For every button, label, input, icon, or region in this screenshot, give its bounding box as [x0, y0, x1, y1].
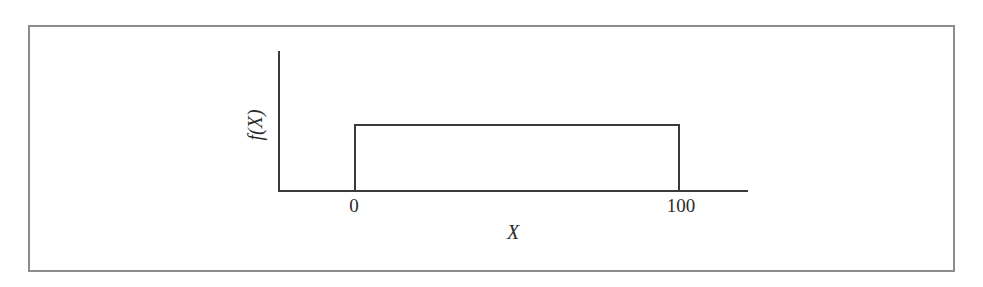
- x-tick-label-0: 0: [324, 196, 384, 215]
- x-tick-label-100: 100: [646, 196, 716, 215]
- y-axis-line: [278, 51, 280, 192]
- uniform-density-rectangle: [354, 124, 680, 191]
- figure-root: 0 100 X f(X): [0, 0, 983, 287]
- plot-area: 0 100 X f(X): [0, 0, 983, 287]
- x-axis-title: X: [473, 222, 553, 242]
- y-axis-title: f(X): [245, 85, 265, 165]
